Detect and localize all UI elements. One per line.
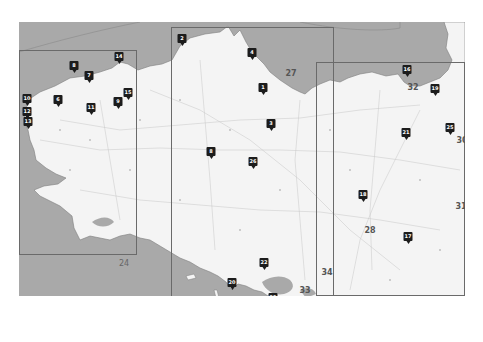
- map-base-layer: [19, 22, 465, 296]
- map-marker-21[interactable]: 21: [402, 128, 411, 137]
- sheet-label: 24: [119, 259, 129, 268]
- map-marker-19[interactable]: 19: [431, 84, 440, 93]
- map-marker-23[interactable]: 23: [269, 293, 278, 296]
- map-marker-8b[interactable]: 8: [207, 147, 216, 156]
- map-canvas[interactable]: 27 32 30 31 28 34 33 24 1 2 3 4 6 7 8 9 …: [19, 22, 465, 296]
- map-marker-25[interactable]: 25: [446, 123, 455, 132]
- map-marker-16[interactable]: 16: [403, 65, 412, 74]
- map-marker-26[interactable]: 26: [249, 157, 258, 166]
- map-marker-3[interactable]: 3: [267, 119, 276, 128]
- map-marker-14[interactable]: 14: [115, 52, 124, 61]
- sheet-label: 28: [364, 226, 375, 235]
- sheet-label: 31: [455, 202, 465, 211]
- map-marker-9[interactable]: 9: [114, 97, 123, 106]
- sheet-label: 27: [285, 69, 296, 78]
- map-marker-17[interactable]: 17: [404, 232, 413, 241]
- map-marker-10[interactable]: 10: [23, 94, 32, 103]
- map-marker-22[interactable]: 22: [260, 258, 269, 267]
- map-marker-7[interactable]: 7: [85, 71, 94, 80]
- sheet-label: 33: [299, 286, 310, 295]
- sheet-label: 30: [456, 136, 465, 145]
- map-marker-1[interactable]: 1: [259, 83, 268, 92]
- map-marker-20[interactable]: 20: [228, 278, 237, 287]
- map-marker-4[interactable]: 4: [248, 48, 257, 57]
- map-marker-11[interactable]: 11: [87, 103, 96, 112]
- sheet-label: 32: [407, 83, 418, 92]
- map-marker-15[interactable]: 15: [124, 88, 133, 97]
- map-marker-18[interactable]: 18: [359, 190, 368, 199]
- map-marker-12[interactable]: 12: [23, 107, 32, 116]
- map-marker-8[interactable]: 8: [70, 61, 79, 70]
- map-marker-6[interactable]: 6: [54, 95, 63, 104]
- map-marker-13[interactable]: 13: [24, 117, 33, 126]
- sheet-label: 34: [321, 268, 332, 277]
- map-marker-2[interactable]: 2: [178, 34, 187, 43]
